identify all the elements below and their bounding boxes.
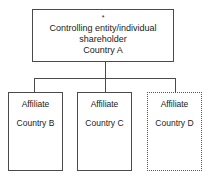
node-controlling-entity-line1: Controlling entity/individual bbox=[33, 23, 173, 34]
node-affiliate-country-d-country: Country D bbox=[148, 118, 201, 128]
node-affiliate-country-c: Affiliate Country C bbox=[77, 92, 132, 171]
footnote-asterisk: * bbox=[33, 14, 173, 21]
node-affiliate-country-c-country: Country C bbox=[78, 118, 131, 128]
connector-root-stem bbox=[105, 62, 106, 79]
node-affiliate-country-b-country: Country B bbox=[9, 118, 62, 128]
node-affiliate-country-b-title: Affiliate bbox=[9, 99, 62, 109]
node-affiliate-country-d: Affiliate Country D bbox=[147, 92, 202, 171]
node-affiliate-country-b: Affiliate Country B bbox=[8, 92, 63, 171]
node-controlling-entity-country: Country A bbox=[33, 45, 173, 56]
node-affiliate-country-c-title: Affiliate bbox=[78, 99, 131, 109]
connector-drop-affiliate-2 bbox=[105, 78, 106, 92]
org-chart-diagram: * Controlling entity/individual sharehol… bbox=[0, 0, 211, 178]
node-controlling-entity-line2: shareholder bbox=[33, 34, 173, 45]
connector-drop-affiliate-1 bbox=[34, 78, 35, 92]
node-affiliate-country-d-title: Affiliate bbox=[148, 99, 201, 109]
connector-drop-affiliate-3 bbox=[175, 78, 176, 92]
node-controlling-entity: * Controlling entity/individual sharehol… bbox=[32, 9, 174, 62]
